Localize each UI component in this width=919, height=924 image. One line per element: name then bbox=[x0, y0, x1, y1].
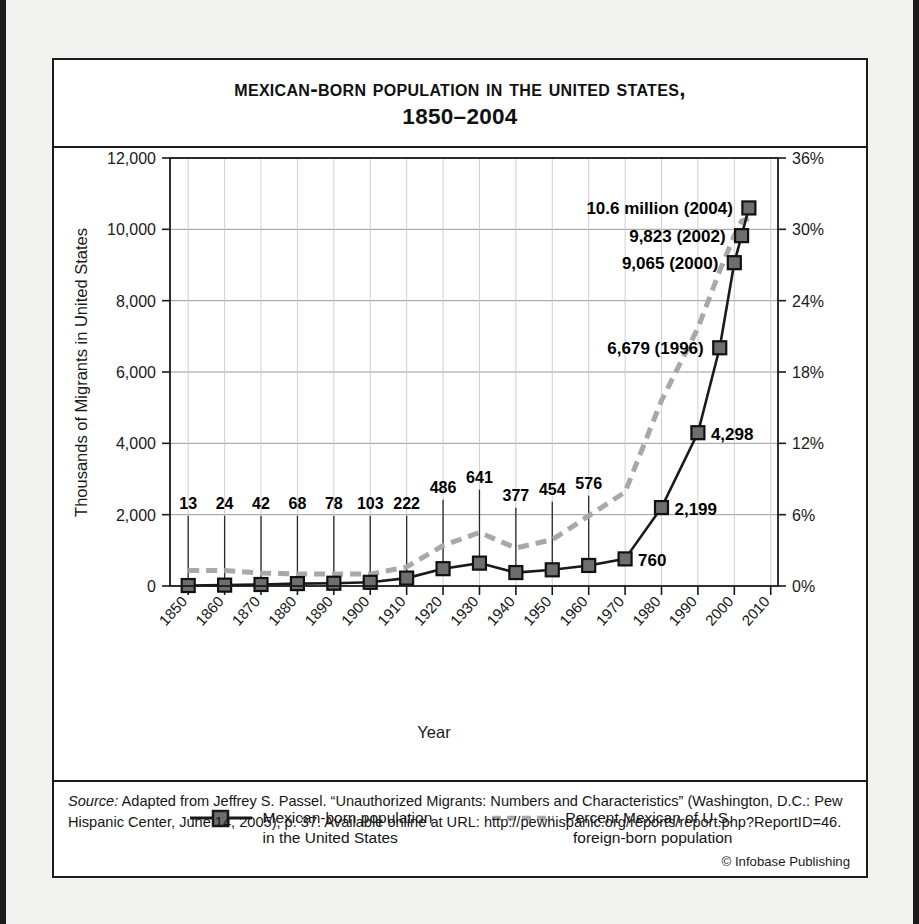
chart-title-line-1: Mexican-Born Population in the United St… bbox=[234, 76, 685, 102]
data-point-label: 78 bbox=[325, 495, 343, 512]
data-point-label: 103 bbox=[357, 495, 384, 512]
y2-tick-label: 12% bbox=[792, 435, 824, 452]
y-axis-title: Thousands of Migrants in United States bbox=[72, 183, 91, 563]
data-point-marker bbox=[582, 559, 595, 572]
source-block: Source: Adapted from Jeffrey S. Passel. … bbox=[54, 780, 866, 876]
data-point-label: 222 bbox=[393, 495, 420, 512]
x-tick-label: 1920 bbox=[410, 593, 445, 629]
chart-plot: 02,0004,0006,0008,00010,00012,000 0%6%12… bbox=[54, 148, 866, 728]
x-tick-label: 1940 bbox=[483, 593, 518, 629]
data-point-label: 486 bbox=[430, 479, 457, 496]
y2-tick-label: 30% bbox=[792, 221, 824, 238]
data-point-marker bbox=[437, 562, 450, 575]
data-point-annotation: 9,823 (2002) bbox=[629, 227, 725, 246]
data-point-label: 4,298 bbox=[711, 425, 754, 444]
y2-tick-label: 24% bbox=[792, 293, 824, 310]
figure-frame: Mexican-Born Population in the United St… bbox=[52, 58, 868, 878]
x-tick-label: 1910 bbox=[374, 593, 409, 629]
y2-tick-label: 36% bbox=[792, 150, 824, 167]
x-tick-label: 1960 bbox=[556, 593, 591, 629]
data-point-label: 13 bbox=[179, 495, 197, 512]
x-tick-label: 2010 bbox=[738, 593, 773, 629]
y-tick-label: 0 bbox=[147, 578, 156, 595]
x-tick-label: 1850 bbox=[155, 593, 190, 629]
y2-tick-label: 0% bbox=[792, 578, 815, 595]
data-point-label: 454 bbox=[539, 481, 566, 498]
y-axis-right-ticks: 0%6%12%18%24%30%36% bbox=[778, 150, 824, 595]
x-tick-label: 1950 bbox=[520, 593, 555, 629]
x-tick-label: 1980 bbox=[629, 593, 664, 629]
data-point-label: 24 bbox=[216, 495, 234, 512]
data-point-label: 576 bbox=[575, 475, 602, 492]
x-tick-label: 1880 bbox=[265, 593, 300, 629]
data-point-label: 377 bbox=[503, 487, 530, 504]
x-tick-label: 2000 bbox=[702, 593, 737, 629]
data-point-marker bbox=[742, 201, 755, 214]
data-point-marker bbox=[255, 578, 268, 591]
data-point-marker bbox=[327, 577, 340, 590]
chart-area: 02,0004,0006,0008,00010,00012,000 0%6%12… bbox=[54, 148, 866, 758]
copyright-notice: © Infobase Publishing bbox=[722, 854, 851, 869]
data-point-annotation: 6,679 (1996) bbox=[607, 339, 703, 358]
y-tick-label: 2,000 bbox=[116, 507, 156, 524]
y-tick-label: 10,000 bbox=[107, 221, 156, 238]
data-point-marker bbox=[713, 341, 726, 354]
source-text: Source: Adapted from Jeffrey S. Passel. … bbox=[68, 791, 852, 832]
y-tick-label: 12,000 bbox=[107, 150, 156, 167]
data-point-label: 641 bbox=[466, 469, 493, 486]
x-axis-title: Year bbox=[54, 723, 814, 742]
y-tick-label: 8,000 bbox=[116, 293, 156, 310]
data-point-annotation: 10.6 million (2004) bbox=[586, 199, 732, 218]
data-point-marker bbox=[735, 229, 748, 242]
source-body: Adapted from Jeffrey S. Passel. “Unautho… bbox=[68, 793, 843, 830]
data-point-marker bbox=[728, 256, 741, 269]
data-point-marker bbox=[546, 563, 559, 576]
data-point-marker bbox=[691, 426, 704, 439]
chart-title-block: Mexican-Born Population in the United St… bbox=[54, 60, 866, 148]
x-tick-label: 1860 bbox=[192, 593, 227, 629]
y2-tick-label: 18% bbox=[792, 364, 824, 381]
x-axis-ticks: 1850186018701880189019001910192019301940… bbox=[155, 586, 772, 629]
chart-title-line-2: 1850–2004 bbox=[402, 104, 517, 130]
x-tick-label: 1900 bbox=[338, 593, 373, 629]
data-point-label: 760 bbox=[638, 551, 666, 570]
data-point-marker bbox=[655, 501, 668, 514]
x-tick-label: 1990 bbox=[665, 593, 700, 629]
y-tick-label: 6,000 bbox=[116, 364, 156, 381]
x-tick-label: 1970 bbox=[592, 593, 627, 629]
y-tick-label: 4,000 bbox=[116, 435, 156, 452]
source-label: Source: bbox=[68, 793, 118, 809]
x-tick-label: 1870 bbox=[228, 593, 263, 629]
y2-tick-label: 6% bbox=[792, 507, 815, 524]
data-point-marker bbox=[473, 557, 486, 570]
data-point-marker bbox=[291, 577, 304, 590]
data-point-marker bbox=[400, 572, 413, 585]
data-point-marker bbox=[509, 566, 522, 579]
data-point-label: 68 bbox=[289, 495, 307, 512]
x-tick-label: 1890 bbox=[301, 593, 336, 629]
data-point-label: 42 bbox=[252, 495, 270, 512]
data-point-annotation: 9,065 (2000) bbox=[622, 254, 718, 273]
data-point-label: 2,199 bbox=[674, 500, 717, 519]
data-point-marker bbox=[619, 552, 632, 565]
y-axis-left-ticks: 02,0004,0006,0008,00010,00012,000 bbox=[107, 150, 170, 595]
x-tick-label: 1930 bbox=[447, 593, 482, 629]
page-canvas: Mexican-Born Population in the United St… bbox=[0, 0, 919, 924]
